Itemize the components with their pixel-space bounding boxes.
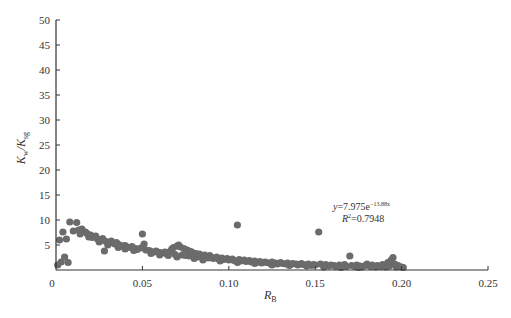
data-point	[389, 254, 396, 261]
data-point	[104, 241, 111, 248]
fit-equation: y=7.975e−13.88x	[332, 201, 390, 212]
y-tick-label: 25	[39, 139, 51, 151]
axes	[56, 20, 488, 270]
data-point	[77, 230, 84, 237]
x-tick-label: 0.10	[219, 277, 239, 289]
data-point	[303, 262, 310, 269]
data-point	[73, 219, 80, 226]
data-point	[130, 247, 137, 254]
y-tick-label: 35	[39, 89, 51, 101]
x-tick-label: 0.05	[133, 277, 153, 289]
scatter-chart: 5101520253035404550 00.050.100.150.200.2…	[0, 0, 511, 318]
data-point	[96, 238, 103, 245]
data-point	[147, 250, 154, 257]
data-point	[173, 253, 180, 260]
data-point	[122, 245, 129, 252]
data-point	[346, 252, 353, 259]
data-point	[85, 233, 92, 240]
data-point	[59, 228, 66, 235]
y-tick-label: 15	[39, 189, 51, 201]
data-point	[115, 244, 122, 251]
data-point	[268, 261, 275, 268]
x-tick-label: 0.15	[306, 277, 326, 289]
y-ticks: 5101520253035404550	[39, 14, 60, 251]
data-point	[156, 251, 163, 258]
data-point	[217, 257, 224, 264]
data-point	[251, 260, 258, 267]
x-tick-label: 0	[49, 277, 55, 289]
data-point	[165, 252, 172, 259]
data-point	[315, 228, 322, 235]
data-point	[286, 262, 293, 269]
data-point	[139, 230, 146, 237]
y-tick-label: 45	[39, 39, 51, 51]
data-point	[56, 236, 63, 243]
y-axis-label: Kw/Ksg	[14, 132, 30, 165]
y-tick-label: 10	[39, 214, 51, 226]
data-point	[66, 218, 73, 225]
y-tick-label: 30	[39, 114, 51, 126]
x-tick-label: 0.25	[478, 277, 498, 289]
fit-annotation: y=7.975e−13.88x R2=0.7948	[332, 201, 390, 224]
y-tick-label: 40	[39, 64, 51, 76]
data-point	[65, 259, 72, 266]
data-point	[191, 255, 198, 262]
data-point	[234, 221, 241, 228]
data-point	[199, 256, 206, 263]
data-point	[63, 235, 70, 242]
y-tick-label: 5	[45, 239, 51, 251]
data-points	[54, 218, 407, 271]
data-point	[234, 259, 241, 266]
x-tick-label: 0.20	[392, 277, 412, 289]
x-axis-label: RB	[263, 288, 277, 304]
y-tick-label: 20	[39, 164, 51, 176]
y-tick-label: 50	[39, 14, 51, 26]
r-squared: R2=0.7948	[341, 213, 384, 224]
